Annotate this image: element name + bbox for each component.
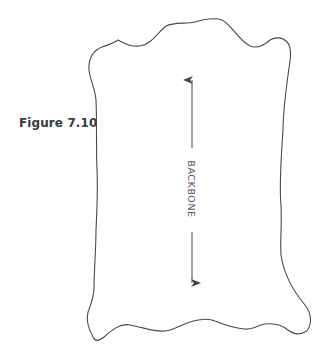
hide-outline xyxy=(87,19,310,341)
hide-diagram xyxy=(0,0,327,362)
backbone-label: BACKBONE xyxy=(186,158,197,219)
